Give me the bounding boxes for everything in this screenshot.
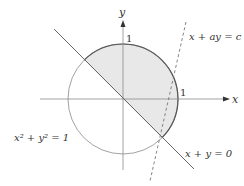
shaded-region: [84, 44, 178, 138]
x-axis-arrow-icon: [223, 97, 230, 102]
circle-equation: x² + y² = 1: [14, 132, 69, 143]
dashed-line-equation: x + ay = c: [189, 31, 242, 42]
x-axis-label: x: [232, 93, 239, 106]
diagram: y x 1 1 x + ay = c x² + y² = 1 x + y = 0: [0, 0, 244, 186]
y-axis-label: y: [118, 6, 126, 19]
x-tick-label: 1: [180, 87, 186, 98]
y-tick-label: 1: [126, 33, 132, 44]
y-axis-arrow-icon: [121, 20, 126, 27]
diagonal-line-equation: x + y = 0: [185, 148, 233, 159]
